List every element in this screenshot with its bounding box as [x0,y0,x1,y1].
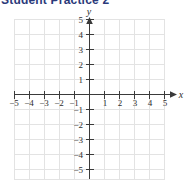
y-tick-label: −5 [73,165,83,175]
x-tick-label: 4 [148,98,153,108]
worksheet-page: Student Practice 2 [0,0,188,192]
y-tick-label: −1 [73,105,83,115]
x-tick-label: 1 [103,98,108,108]
y-axis-arrow [86,17,93,24]
x-tick-label: −4 [24,98,34,108]
x-tick-label: −2 [54,98,64,108]
y-tick-label: 1 [79,75,84,85]
x-tick-label: 5 [163,98,168,108]
y-tick-label: 2 [79,60,84,70]
x-axis-arrow [170,91,177,98]
x-tick-labels: −5 −4 −3 −2 −1 1 2 3 4 5 [9,98,168,108]
y-axis-label: y [86,8,92,17]
x-tick-label: −5 [9,98,19,108]
coordinate-plane[interactable]: −5 −4 −3 −2 −1 1 2 3 4 5 5 4 3 2 1 −1 −2… [0,8,188,192]
coordinate-grid-svg[interactable]: −5 −4 −3 −2 −1 1 2 3 4 5 5 4 3 2 1 −1 −2… [0,8,188,192]
y-tick-label: −3 [73,135,83,145]
y-tick-label: −4 [73,150,83,160]
x-tick-label: 2 [118,98,123,108]
x-axis [14,91,177,98]
x-tick-label: −3 [39,98,49,108]
y-tick-label: 5 [79,15,84,25]
x-tick-label: 3 [133,98,138,108]
y-tick-label: 4 [79,30,84,40]
worksheet-title-band: Student Practice 2 [0,0,188,8]
y-tick-label: −2 [73,120,83,130]
x-axis-label: x [178,89,184,100]
page-title: Student Practice 2 [1,0,109,7]
y-tick-label: 3 [79,45,84,55]
